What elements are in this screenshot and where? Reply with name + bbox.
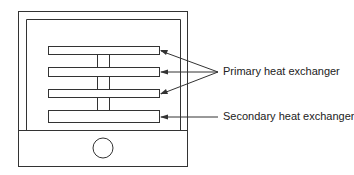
burner-port <box>93 138 113 158</box>
heat-exchanger-diagram <box>0 0 354 175</box>
primary-exchanger-bar-3 <box>49 90 160 98</box>
primary-heat-exchanger-label: Primary heat exchanger <box>223 65 340 77</box>
primary-exchanger-bar-1 <box>49 47 160 55</box>
leader-line-3 <box>161 72 218 94</box>
arrowhead-1 <box>160 50 168 55</box>
secondary-exchanger-bar <box>49 111 160 123</box>
leader-line-1 <box>161 51 218 72</box>
secondary-heat-exchanger-label: Secondary heat exchanger <box>223 110 354 122</box>
arrowhead-4 <box>160 115 168 120</box>
arrowhead-2 <box>160 70 168 75</box>
arrowhead-3 <box>160 89 168 94</box>
primary-exchanger-bar-2 <box>49 68 160 77</box>
